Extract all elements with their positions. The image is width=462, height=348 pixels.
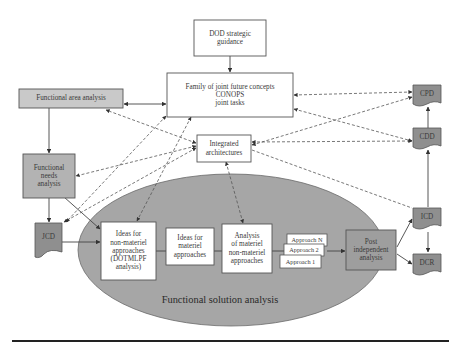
post-independent-analysis-label: Post independent analysis bbox=[346, 230, 396, 270]
jcd-left-label: JCD bbox=[35, 223, 62, 251]
cpd-label: CPD bbox=[413, 85, 441, 103]
family-concepts-label: Family of joint future concepts CONOPS j… bbox=[167, 73, 293, 117]
dcr-label: DCR bbox=[413, 254, 441, 272]
ideas-nonmateriel-label: Ideas for non-materiel approaches (DOTML… bbox=[101, 222, 156, 280]
functional-area-analysis-label: Functional area analysis bbox=[19, 89, 123, 108]
cdd-label: CDD bbox=[413, 128, 441, 146]
analysis-approaches-label: Analysis of materiel non-materiel approa… bbox=[222, 224, 272, 273]
functional-solution-analysis-label: Functional solution analysis bbox=[140, 292, 300, 308]
dod-guidance-label: DOD strategic guidance bbox=[194, 20, 266, 56]
integrated-architectures-label: Integrated architectures bbox=[197, 135, 251, 162]
ideas-materiel-label: Ideas for materiel approaches bbox=[166, 228, 214, 265]
functional-needs-analysis-label: Functional needs analysis bbox=[23, 154, 75, 198]
icd-right-label: ICD bbox=[413, 208, 441, 226]
approach-1-label: Approach 1 bbox=[280, 255, 321, 268]
